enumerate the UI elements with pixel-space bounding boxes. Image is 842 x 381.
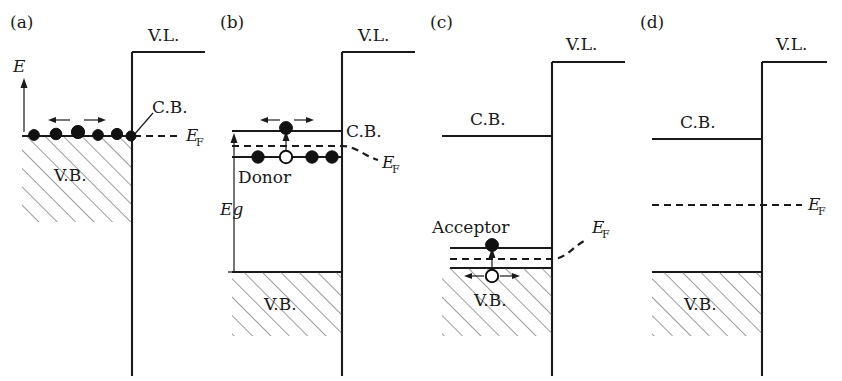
donor-site-filled	[252, 151, 264, 163]
panel-c-canvas: (c) V.L. C.B. Acceptor E F V.B.	[420, 0, 632, 381]
fermi-level-subscript: F	[392, 163, 400, 176]
donor-site-filled	[306, 151, 318, 163]
acceptor-label: Acceptor	[431, 217, 510, 237]
panel-b-canvas: (b) V.L. C.B. E F Donor	[210, 0, 422, 381]
electron	[50, 128, 62, 140]
valence-band-label: V.B.	[473, 290, 507, 310]
fermi-level-subscript: F	[196, 136, 204, 149]
band-gap-label: Eg	[219, 199, 243, 219]
panel-c-caption: (c)	[430, 12, 453, 32]
band-diagram-figure: (a) E V.B. V.L. C.B. E F	[0, 0, 842, 381]
panel-b-caption: (b)	[220, 12, 244, 32]
conduction-band-label: C.B.	[470, 109, 506, 129]
fermi-level-subscript: F	[818, 205, 826, 218]
valence-band-label: V.B.	[263, 294, 297, 314]
electron	[126, 131, 136, 141]
electron	[111, 128, 122, 139]
vacuum-level-label: V.L.	[357, 25, 389, 45]
donor-site-ionized	[280, 151, 292, 163]
conduction-electron	[280, 122, 293, 135]
panel-a-caption: (a)	[10, 12, 33, 32]
fermi-level-subscript: F	[602, 228, 610, 241]
electron	[71, 125, 84, 138]
hole	[486, 270, 498, 282]
vacuum-level-label: V.L.	[147, 25, 179, 45]
panel-a: (a) E V.B. V.L. C.B. E F	[0, 0, 212, 381]
panel-a-canvas: (a) E V.B. V.L. C.B. E F	[0, 0, 212, 381]
valence-band-label: V.B.	[683, 294, 717, 314]
panel-c: (c) V.L. C.B. Acceptor E F V.B.	[420, 0, 632, 381]
valence-band-label: V.B.	[53, 165, 87, 185]
fermi-level-curve	[450, 240, 586, 259]
energy-axis: E	[12, 56, 28, 132]
electron-motion-arrows	[48, 117, 106, 123]
conduction-band-label: C.B.	[680, 112, 716, 132]
vacuum-level-label: V.L.	[775, 34, 807, 54]
conduction-band-leader	[133, 113, 153, 136]
electron	[29, 130, 40, 141]
conduction-band-label: C.B.	[346, 121, 382, 141]
electron	[93, 130, 104, 141]
donor-label: Donor	[238, 167, 292, 187]
panel-d-canvas: (d) V.L. C.B. E F V.B.	[630, 0, 842, 381]
vacuum-level	[762, 62, 827, 376]
panel-d-caption: (d)	[640, 12, 664, 32]
vacuum-level	[552, 62, 625, 376]
energy-axis-label: E	[12, 56, 26, 76]
donor-site-filled	[326, 151, 338, 163]
vacuum-level-label: V.L.	[565, 34, 597, 54]
panel-b: (b) V.L. C.B. E F Donor	[210, 0, 422, 381]
acceptor-electron	[486, 239, 499, 252]
vacuum-level	[342, 52, 415, 376]
conduction-band-label: C.B.	[152, 97, 188, 117]
panel-d: (d) V.L. C.B. E F V.B.	[630, 0, 842, 381]
